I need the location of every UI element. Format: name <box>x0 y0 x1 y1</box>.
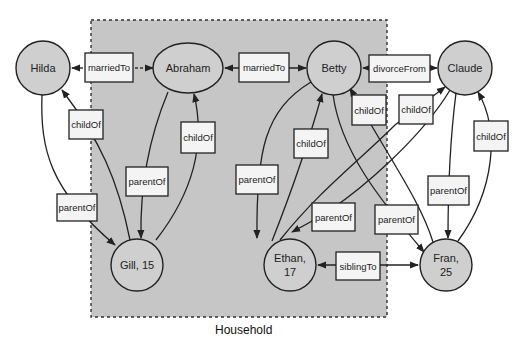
family-relationship-diagram: Household marriedTomarriedTodivorceFromc… <box>0 0 528 352</box>
edge-label-text: marriedTo <box>88 62 130 73</box>
edge-label-childOf: childOf <box>181 122 215 153</box>
edge-label-text: childOf <box>183 132 213 143</box>
node-ethan: Ethan,17 <box>264 239 316 291</box>
edge-label-parentOf: parentOf <box>428 176 469 205</box>
node-label: Fran, <box>433 252 459 264</box>
edge-label-parentOf: parentOf <box>57 194 97 221</box>
edge-label-marriedTo: marriedTo <box>85 53 133 82</box>
node-fran: Fran,25 <box>420 239 472 291</box>
edge-label-text: parentOf <box>430 185 467 196</box>
edge-label-divorceFrom: divorceFrom <box>369 55 430 82</box>
edge-label-parentOf: parentOf <box>236 165 278 194</box>
edge-label-text: marriedTo <box>243 62 285 73</box>
node-hilda: Hilda <box>16 41 70 95</box>
node-shape <box>264 239 316 291</box>
edge-label-text: childOf <box>296 138 326 149</box>
edge-label-childOf: childOf <box>69 110 103 139</box>
edge-label-parentOf: parentOf <box>375 205 418 234</box>
node-label: Abraham <box>166 62 211 74</box>
edge-label-text: childOf <box>476 131 506 142</box>
node-label: 25 <box>440 266 452 278</box>
node-label: Claude <box>448 62 483 74</box>
edge-label-text: divorceFrom <box>373 63 426 74</box>
node-abraham: Abraham <box>153 43 223 93</box>
edge-label-text: parentOf <box>378 214 415 225</box>
node-label: Ethan, <box>274 252 306 264</box>
node-label: Betty <box>321 62 347 74</box>
edge-label-text: childOf <box>71 119 101 130</box>
edge-label-text: parentOf <box>315 212 352 223</box>
edge-label-childOf: childOf <box>399 95 433 124</box>
node-label: Hilda <box>30 62 56 74</box>
edge-fran-claude-childOf <box>458 92 491 241</box>
edge-label-text: parentOf <box>239 174 276 185</box>
node-label: Gill, 15 <box>120 259 154 271</box>
household-group-label: Household <box>215 323 272 337</box>
edge-label-text: childOf <box>354 105 384 116</box>
edge-label-siblingTo: siblingTo <box>336 252 380 280</box>
edge-claude-fran-parentOf <box>448 93 456 238</box>
edge-label-text: childOf <box>401 104 431 115</box>
edge-label-parentOf: parentOf <box>126 167 168 196</box>
edge-label-text: siblingTo <box>340 261 377 272</box>
edge-label-text: parentOf <box>129 176 166 187</box>
node-gill: Gill, 15 <box>111 239 163 291</box>
node-betty: Betty <box>307 41 361 95</box>
edge-label-childOf: childOf <box>294 129 328 158</box>
edge-label-text: parentOf <box>59 202 96 213</box>
node-label: 17 <box>284 266 296 278</box>
node-shape <box>420 239 472 291</box>
edge-label-parentOf: parentOf <box>312 203 355 231</box>
node-claude: Claude <box>438 41 492 95</box>
edge-label-childOf: childOf <box>474 121 508 151</box>
edge-label-marriedTo: marriedTo <box>239 53 289 82</box>
edge-label-childOf: childOf <box>352 95 386 125</box>
